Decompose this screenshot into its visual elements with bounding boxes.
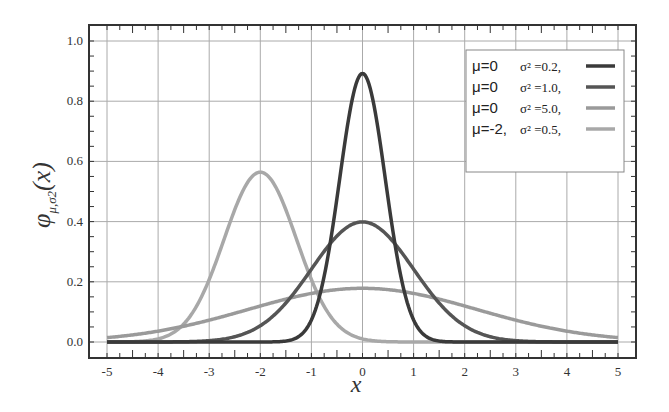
- legend-sigma: σ² =1.0,: [520, 80, 561, 95]
- x-tick-label: 2: [461, 364, 468, 379]
- y-tick-label: 1.0: [67, 33, 83, 48]
- svg-text:φμ,σ2(x): φμ,σ2(x): [27, 162, 59, 228]
- x-tick-label: -4: [153, 364, 164, 379]
- x-axis-label: x: [350, 371, 362, 397]
- x-tick-label: 4: [564, 364, 571, 379]
- y-axis-label: φμ,σ2(x): [27, 162, 59, 228]
- x-tick-label: -1: [306, 364, 317, 379]
- x-tick-label: -5: [102, 364, 113, 379]
- legend-sigma: σ² =0.2,: [520, 59, 561, 74]
- legend-sigma: σ² =5.0,: [520, 101, 561, 116]
- legend-mu: μ=-2,: [472, 120, 507, 137]
- legend-mu: μ=0: [472, 78, 498, 95]
- x-tick-label: -3: [204, 364, 215, 379]
- normal-distribution-chart: -5-4-3-2-10123450.00.20.40.60.81.0 μ=0σ²…: [0, 0, 669, 412]
- y-tick-label: 0.6: [67, 153, 84, 168]
- x-tick-label: 3: [513, 364, 520, 379]
- y-tick-label: 0.4: [67, 214, 84, 229]
- x-tick-label: 5: [615, 364, 622, 379]
- x-tick-label: -2: [255, 364, 266, 379]
- legend-mu: μ=0: [472, 99, 498, 116]
- y-tick-label: 0.2: [67, 274, 83, 289]
- x-tick-label: 1: [410, 364, 417, 379]
- y-tick-label: 0.0: [67, 334, 83, 349]
- legend-sigma: σ² =0.5,: [520, 122, 561, 137]
- legend: μ=0σ² =0.2,μ=0σ² =1.0,μ=0σ² =5.0,μ=-2,σ²…: [466, 50, 624, 172]
- legend-mu: μ=0: [472, 57, 498, 74]
- y-tick-label: 0.8: [67, 93, 83, 108]
